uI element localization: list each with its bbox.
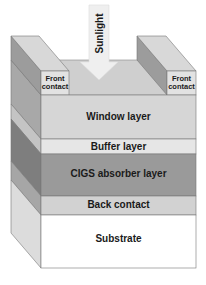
front-contact-left-label: Front contact [41, 75, 69, 91]
buffer-layer-label: Buffer layer [41, 141, 196, 152]
side-face [11, 60, 41, 268]
front-contact-right-label: Front contact [167, 75, 196, 91]
substrate-label: Substrate [41, 233, 196, 244]
cigs-absorber-layer-label: CIGS absorber layer [41, 168, 196, 179]
back-contact-label: Back contact [41, 199, 196, 210]
front-contact-right-line2: contact [167, 83, 196, 91]
window-layer-label: Window layer [41, 111, 196, 122]
sunlight-label: Sunlight [94, 9, 105, 59]
front-contact-left-line2: contact [41, 83, 69, 91]
